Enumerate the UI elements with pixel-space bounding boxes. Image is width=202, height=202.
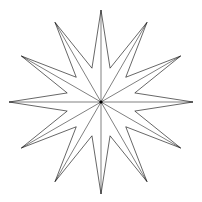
star-diagram bbox=[0, 0, 202, 202]
star-icon bbox=[0, 0, 202, 202]
star-center bbox=[99, 100, 102, 103]
